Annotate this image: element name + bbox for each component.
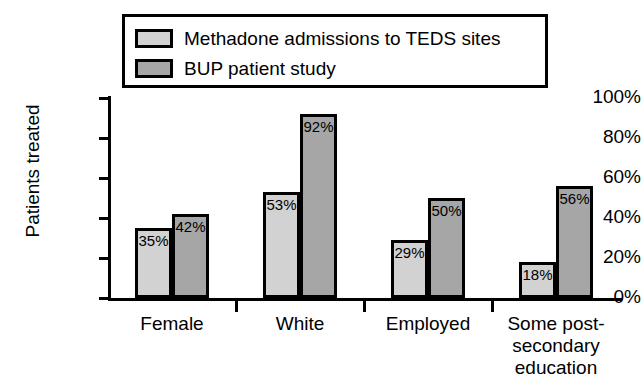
- legend-item-methadone: Methadone admissions to TEDS sites: [135, 23, 545, 53]
- y-axis-tick: [99, 297, 108, 300]
- x-axis-category-label-line: White: [236, 313, 364, 335]
- legend-swatch-icon-methadone: [135, 29, 173, 48]
- y-axis-tick: [99, 137, 108, 140]
- x-axis-category-label-line: Female: [108, 313, 236, 335]
- x-axis-category-label: Some post-secondaryeducation: [492, 313, 620, 379]
- bar: 29%: [391, 240, 428, 298]
- bar: 53%: [263, 192, 300, 298]
- bar-value-label: 18%: [522, 267, 553, 283]
- x-axis-separator-tick: [491, 301, 494, 312]
- x-axis-category-label-line: education: [492, 357, 620, 379]
- y-axis-tick: [99, 217, 108, 220]
- legend-label-bup: BUP patient study: [184, 59, 336, 78]
- y-axis-tick: [99, 97, 108, 100]
- chart-legend: Methadone admissions to TEDS sites BUP p…: [122, 14, 548, 88]
- x-axis-separator-tick: [363, 301, 366, 312]
- bar: 42%: [172, 214, 209, 298]
- bar: 35%: [135, 228, 172, 298]
- bar-value-label: 29%: [394, 245, 425, 261]
- bar-value-label: 50%: [431, 203, 462, 219]
- y-axis-tick: [99, 257, 108, 260]
- bar-value-label: 56%: [559, 191, 590, 207]
- bar-value-label: 42%: [175, 219, 206, 235]
- bar-chart: Methadone admissions to TEDS sites BUP p…: [0, 0, 641, 392]
- bar: 92%: [300, 114, 337, 298]
- x-axis-category-label-line: Some post-: [492, 313, 620, 335]
- legend-label-methadone: Methadone admissions to TEDS sites: [184, 29, 500, 48]
- x-axis-category-label-line: secondary: [492, 335, 620, 357]
- x-axis-category-label-line: Employed: [364, 313, 492, 335]
- bar-value-label: 35%: [138, 233, 169, 249]
- legend-item-bup: BUP patient study: [135, 53, 545, 83]
- legend-swatch-icon-bup: [135, 59, 173, 78]
- bar: 50%: [428, 198, 465, 298]
- bar: 18%: [519, 262, 556, 298]
- x-axis-separator-tick: [235, 301, 238, 312]
- bar: 56%: [556, 186, 593, 298]
- y-axis-title: Patients treated: [22, 86, 44, 256]
- x-axis-category-label: Female: [108, 313, 236, 335]
- x-axis-category-label: White: [236, 313, 364, 335]
- bar-value-label: 92%: [303, 119, 334, 135]
- bar-value-label: 53%: [266, 197, 297, 213]
- x-axis-category-label: Employed: [364, 313, 492, 335]
- plot-area: 35%42%53%92%29%50%18%56%: [108, 98, 620, 298]
- y-axis-tick: [99, 177, 108, 180]
